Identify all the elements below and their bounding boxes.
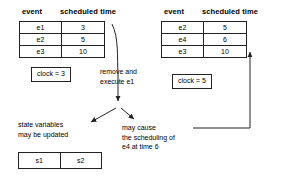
arrow-to-state-variables (91, 108, 116, 122)
table-row: e3 10 (162, 46, 247, 58)
arrow-remove-execute (112, 24, 118, 101)
table-row: e4 6 (162, 34, 247, 46)
right-row-1-event: e4 (162, 34, 204, 46)
left-event-table: e1 3 e2 5 e3 10 (19, 21, 105, 58)
left-row-1-event: e2 (20, 34, 62, 46)
arrow-to-right-table (193, 52, 250, 128)
right-table-header-event: event (164, 7, 184, 16)
left-row-1-time: 5 (62, 34, 105, 46)
right-clock-box: clock = 5 (172, 74, 212, 89)
right-row-1-time: 6 (204, 34, 247, 46)
right-row-2-event: e3 (162, 46, 204, 58)
left-clock-box: clock = 3 (31, 67, 71, 82)
right-row-0-event: e2 (162, 22, 204, 34)
left-table-header-event: event (22, 7, 42, 16)
left-row-0-event: e1 (20, 22, 62, 34)
right-table-header-scheduled-time: scheduled time (202, 7, 258, 16)
note-remove-and-execute: remove and execute e1 (100, 67, 137, 86)
table-row: e2 5 (20, 34, 105, 46)
note-state-variables: state variables may be updated (18, 120, 68, 139)
state-cell-s1: s1 (19, 153, 60, 168)
diagram-canvas: event scheduled time e1 3 e2 5 e3 10 clo… (0, 0, 286, 178)
table-row: e2 5 (162, 22, 247, 34)
right-row-0-time: 5 (204, 22, 247, 34)
table-row: e3 10 (20, 46, 105, 58)
left-table-header-scheduled-time: scheduled time (60, 7, 116, 16)
left-row-0-time: 3 (62, 22, 105, 34)
state-cell-s2: s2 (60, 153, 102, 168)
table-row: e1 3 (20, 22, 105, 34)
note-may-cause: may cause the scheduling of e4 at time 6 (122, 123, 175, 152)
arrow-to-may-cause (121, 108, 134, 119)
state-variables-box: s1 s2 (18, 152, 102, 169)
left-row-2-time: 10 (62, 46, 105, 58)
right-event-table: e2 5 e4 6 e3 10 (161, 21, 247, 58)
left-row-2-event: e3 (20, 46, 62, 58)
right-row-2-time: 10 (204, 46, 247, 58)
